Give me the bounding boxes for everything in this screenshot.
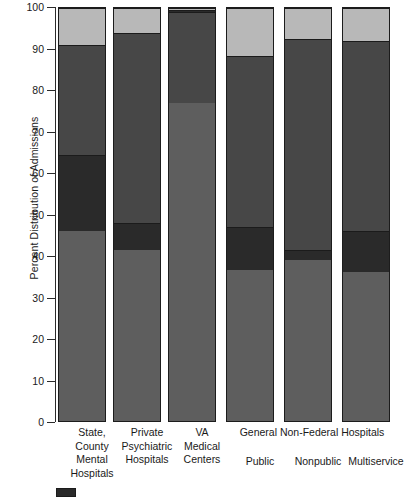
bar-1-segment-3 [59, 45, 105, 154]
legend [56, 488, 82, 497]
bar-1-segment-2 [59, 155, 105, 231]
y-tick-label-0: 0 [2, 417, 44, 427]
x-label-6: Multiservice [330, 455, 404, 469]
bar-2-segment-2 [114, 223, 160, 250]
bar-6-segment-3 [343, 41, 389, 231]
bar-5-segment-5 [285, 8, 331, 39]
y-tick-label-10: 10 [2, 376, 44, 386]
bar-4-segment-1 [227, 270, 273, 421]
y-tick-label-30: 30 [2, 293, 44, 303]
y-tick-0 [47, 422, 55, 423]
bar-4-segment-5 [227, 8, 273, 55]
y-tick-label-20: 20 [2, 334, 44, 344]
chart-root: Percent Distribution of Admissions 01020… [0, 0, 404, 500]
bar-1-segment-1 [59, 231, 105, 421]
y-tick-label-50: 50 [2, 210, 44, 220]
bar-3-segment-3 [169, 12, 215, 103]
bar-6-segment-1 [343, 272, 389, 421]
plot-area [56, 7, 401, 422]
bar-6-segment-2 [343, 231, 389, 272]
x-label-6-line-1: Multiservice [330, 455, 404, 469]
bar-3-segment-1 [169, 103, 215, 421]
bar-5-segment-2 [285, 250, 331, 260]
x-label-3-line-2: Medical [156, 440, 248, 454]
bar-5-segment-3 [285, 39, 331, 250]
legend-swatch [56, 488, 76, 497]
y-tick-label-100: 100 [2, 2, 44, 12]
y-tick-60 [47, 173, 55, 174]
bar-2[interactable] [113, 7, 161, 422]
y-tick-70 [47, 132, 55, 133]
y-tick-label-40: 40 [2, 251, 44, 261]
bar-5-segment-1 [285, 260, 331, 421]
y-tick-50 [47, 215, 55, 216]
y-tick-label-70: 70 [2, 127, 44, 137]
bar-5[interactable] [284, 7, 332, 422]
y-tick-label-60: 60 [2, 168, 44, 178]
bar-2-segment-3 [114, 33, 160, 223]
y-tick-20 [47, 339, 55, 340]
y-tick-30 [47, 298, 55, 299]
bar-2-segment-5 [114, 8, 160, 33]
bar-1-segment-5 [59, 8, 105, 45]
bar-2-segment-1 [114, 250, 160, 421]
y-tick-label-90: 90 [2, 44, 44, 54]
x-axis-group-label: General Non-Federal Hospitals [219, 426, 404, 440]
bar-6[interactable] [342, 7, 390, 422]
bar-4[interactable] [226, 7, 274, 422]
y-tick-90 [47, 49, 55, 50]
bar-1[interactable] [58, 7, 106, 422]
y-axis-title: Percent Distribution of Admissions [28, 78, 40, 318]
y-tick-10 [47, 381, 55, 382]
y-tick-100 [47, 7, 55, 8]
bar-4-segment-2 [227, 227, 273, 270]
y-tick-80 [47, 90, 55, 91]
bar-3[interactable] [168, 7, 216, 422]
bar-4-segment-3 [227, 56, 273, 227]
y-tick-label-80: 80 [2, 85, 44, 95]
y-tick-40 [47, 256, 55, 257]
x-label-1-line-4: Hospitals [46, 467, 138, 481]
bar-6-segment-5 [343, 8, 389, 41]
